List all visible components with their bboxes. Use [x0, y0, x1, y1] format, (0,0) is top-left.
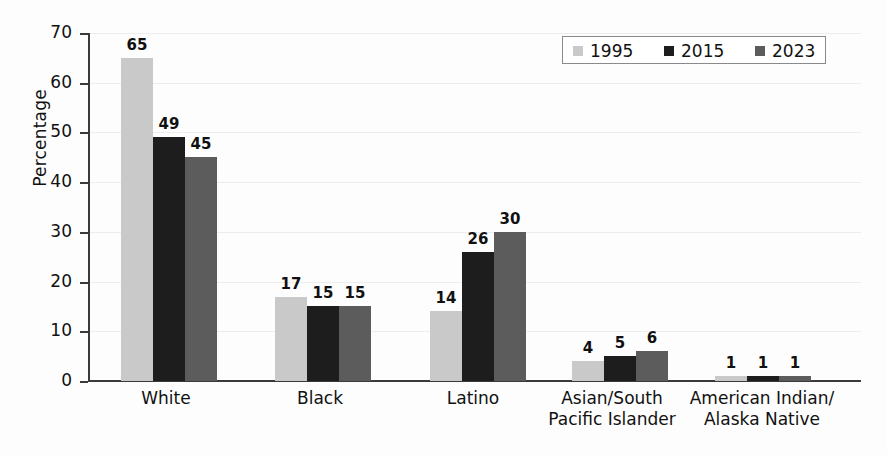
y-tick-mark-10	[80, 331, 88, 333]
bar-slot: 1	[747, 33, 779, 381]
bar-slot: 65	[121, 33, 153, 381]
legend-label-2015: 2015	[681, 43, 724, 60]
y-tick-mark-40	[80, 182, 88, 184]
plot-area: 654945171515142630456111	[90, 33, 861, 381]
bar-value-label: 6	[622, 331, 682, 346]
bar-slot: 4	[572, 33, 604, 381]
legend-label-1995: 1995	[590, 43, 633, 60]
legend-swatch-2023-icon	[755, 46, 765, 56]
bar-white-2023[interactable]	[185, 157, 217, 381]
bar-slot: 6	[636, 33, 668, 381]
bar-asian-2015[interactable]	[604, 356, 636, 381]
bar-slot: 15	[307, 33, 339, 381]
bar-white-1995[interactable]	[121, 58, 153, 381]
bar-cluster: 171515	[275, 33, 371, 381]
bar-value-label: 1	[765, 356, 825, 371]
bar-value-label: 45	[171, 137, 231, 152]
y-tick-label-60: 60	[30, 74, 72, 91]
bar-latino-2023[interactable]	[494, 232, 526, 381]
bar-slot: 45	[185, 33, 217, 381]
x-axis-label-line: American Indian/	[652, 388, 872, 409]
y-tick-label-70: 70	[30, 24, 72, 41]
bar-slot: 15	[339, 33, 371, 381]
y-tick-label-30: 30	[30, 223, 72, 240]
bar-slot: 1	[779, 33, 811, 381]
bar-slot: 49	[153, 33, 185, 381]
bar-cluster: 456	[572, 33, 668, 381]
bar-slot: 1	[715, 33, 747, 381]
x-axis-label-line: Alaska Native	[652, 409, 872, 430]
bar-white-2015[interactable]	[153, 137, 185, 381]
bar-cluster: 654945	[121, 33, 217, 381]
bar-black-2023[interactable]	[339, 306, 371, 381]
legend-item-2023: 2023	[755, 41, 815, 61]
bar-latino-1995[interactable]	[430, 311, 462, 381]
y-tick-mark-0	[80, 381, 88, 383]
y-tick-label-50: 50	[30, 123, 72, 140]
y-tick-mark-30	[80, 232, 88, 234]
bar-slot: 30	[494, 33, 526, 381]
y-tick-label-20: 20	[30, 273, 72, 290]
y-tick-mark-50	[80, 132, 88, 134]
y-tick-label-40: 40	[30, 173, 72, 190]
y-tick-mark-20	[80, 282, 88, 284]
y-tick-label-10: 10	[30, 322, 72, 339]
legend-item-2015: 2015	[664, 41, 724, 61]
y-axis-title: Percentage	[30, 0, 50, 288]
legend-swatch-2015-icon	[664, 46, 674, 56]
bar-cluster: 142630	[430, 33, 526, 381]
bar-slot: 5	[604, 33, 636, 381]
bar-black-1995[interactable]	[275, 297, 307, 382]
legend-item-1995: 1995	[573, 41, 633, 61]
y-tick-mark-70	[80, 33, 88, 35]
legend-label-2023: 2023	[772, 43, 815, 60]
chart-legend: 1995 2015 2023	[562, 36, 826, 64]
bar-cluster: 111	[715, 33, 811, 381]
bar-slot: 17	[275, 33, 307, 381]
legend-swatch-1995-icon	[573, 46, 583, 56]
bar-american-indian-2023[interactable]	[779, 376, 811, 381]
bar-value-label: 15	[325, 286, 385, 301]
bar-american-indian-1995[interactable]	[715, 376, 747, 381]
bar-asian-1995[interactable]	[572, 361, 604, 381]
x-axis-label-american-indian: American Indian/Alaska Native	[652, 388, 872, 430]
bar-latino-2015[interactable]	[462, 252, 494, 381]
bar-american-indian-2015[interactable]	[747, 376, 779, 381]
y-tick-mark-60	[80, 83, 88, 85]
bar-chart: Percentage 010203040506070 6549451715151…	[0, 0, 887, 455]
bar-value-label: 30	[480, 212, 540, 227]
bar-slot: 14	[430, 33, 462, 381]
bar-asian-2023[interactable]	[636, 351, 668, 381]
bar-black-2015[interactable]	[307, 306, 339, 381]
bar-slot: 26	[462, 33, 494, 381]
y-tick-label-0: 0	[30, 372, 72, 389]
